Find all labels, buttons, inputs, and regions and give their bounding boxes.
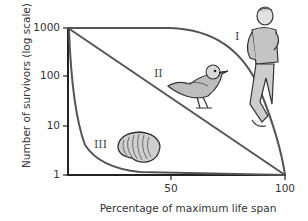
curve-label-II: II [154,67,163,80]
x-axis-label: Percentage of maximum life span [88,202,288,214]
x-tick-50: 50 [156,182,186,194]
x-tick-100: 100 [270,182,300,194]
curve-label-I: I [235,30,239,43]
y-tick-100: 100 [24,69,60,81]
y-axis-label: Number of survivors (log scale) [20,28,32,168]
curve-label-III: III [94,138,107,151]
human-illustration [247,7,278,126]
oyster-illustration [118,132,160,162]
y-tick-10: 10 [24,119,60,131]
plot-area [0,0,308,221]
y-tick-1: 1 [24,168,60,180]
y-tick-1000: 1000 [24,21,60,33]
survivorship-chart: Number of survivors (log scale) Percenta… [0,0,308,221]
